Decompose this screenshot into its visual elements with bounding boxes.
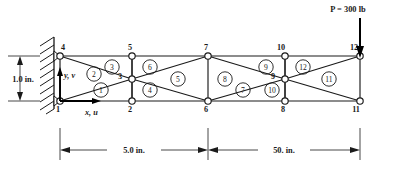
- truss-node-11: [357, 98, 363, 104]
- truss-node-5: [129, 53, 135, 59]
- truss-node-4: [57, 53, 63, 59]
- truss-members: [60, 56, 360, 101]
- truss-figure: 123456789101112 123456789101112 P = 300 …: [0, 0, 394, 172]
- element-label-12: 12: [299, 63, 307, 72]
- truss-nodes: [57, 53, 363, 104]
- truss-svg: 123456789101112 123456789101112 P = 300 …: [0, 0, 394, 172]
- right-span-arrow-end: [350, 147, 360, 153]
- element-label-3: 3: [110, 63, 114, 72]
- element-label-5: 5: [176, 75, 180, 84]
- height-dim-arrow-bottom: [17, 92, 23, 101]
- element-label-10: 10: [268, 86, 276, 95]
- node-label-3: 3: [118, 72, 122, 81]
- truss-node-8: [282, 98, 288, 104]
- y-axis-arrowhead: [57, 67, 63, 76]
- node-label-7: 7: [204, 43, 208, 52]
- span-dimensions: 5.0 in. 50. in.: [60, 128, 360, 160]
- right-span-arrow-start: [208, 147, 218, 153]
- height-dimension: 1.0 in.: [8, 56, 40, 101]
- truss-node-3: [129, 76, 135, 82]
- truss-member: [60, 79, 132, 101]
- x-axis-arrowhead: [92, 98, 101, 104]
- node-label-8: 8: [281, 105, 285, 114]
- left-span-arrow-end: [198, 147, 208, 153]
- element-label-2: 2: [92, 70, 96, 79]
- element-label-1: 1: [99, 86, 103, 95]
- y-axis-label: y, v: [63, 71, 75, 80]
- x-axis-label: x, u: [84, 108, 98, 117]
- truss-member: [132, 79, 208, 101]
- truss-node-2: [129, 98, 135, 104]
- left-span-label: 5.0 in.: [123, 146, 145, 155]
- node-label-9: 9: [271, 72, 275, 81]
- truss-member: [132, 56, 208, 79]
- height-dim-arrow-top: [17, 56, 23, 65]
- element-label-4: 4: [148, 86, 152, 95]
- element-label-6: 6: [148, 63, 152, 72]
- element-numbers: 123456789101112: [87, 60, 336, 97]
- node-label-4: 4: [61, 43, 65, 52]
- node-label-10: 10: [277, 43, 285, 52]
- truss-node-10: [282, 53, 288, 59]
- node-label-2: 2: [128, 105, 132, 114]
- node-label-5: 5: [128, 43, 132, 52]
- node-label-6: 6: [204, 105, 208, 114]
- element-label-8: 8: [223, 75, 227, 84]
- load-label: P = 300 lb: [330, 5, 366, 14]
- element-label-7: 7: [241, 86, 245, 95]
- element-label-11: 11: [325, 75, 333, 84]
- height-dimension-label: 1.0 in.: [12, 75, 34, 84]
- applied-load: P = 300 lb: [330, 5, 366, 58]
- node-label-1: 1: [56, 105, 60, 114]
- node-label-11: 11: [352, 105, 360, 114]
- truss-node-7: [205, 53, 211, 59]
- left-span-arrow-start: [60, 147, 70, 153]
- truss-node-6: [205, 98, 211, 104]
- element-label-9: 9: [264, 63, 268, 72]
- right-span-label: 50. in.: [273, 146, 295, 155]
- wall-hatching: [40, 37, 54, 114]
- truss-node-9: [282, 76, 288, 82]
